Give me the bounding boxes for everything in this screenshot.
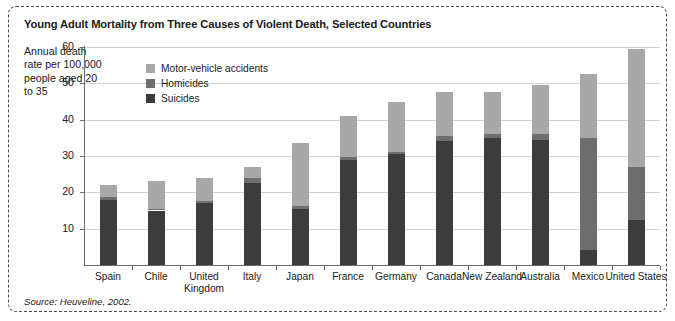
gridline-40 [84, 120, 660, 121]
y-tick-label-60: 60 [48, 40, 74, 52]
bar-segment-australia-suicides [532, 140, 549, 265]
source-note: Source: Heuveline, 2002. [24, 296, 132, 307]
bar-france [340, 47, 357, 265]
bar-mexico [580, 47, 597, 265]
bar-segment-canada-motor-vehicle-accidents [436, 92, 453, 136]
bar-segment-chile-motor-vehicle-accidents [148, 181, 165, 208]
y-tick-label-10: 10 [48, 222, 74, 234]
bar-segment-mexico-motor-vehicle-accidents [580, 74, 597, 138]
bar-segment-canada-suicides [436, 141, 453, 265]
gridline-30 [84, 156, 660, 157]
y-tick-label-40: 40 [48, 113, 74, 125]
chart-legend: Motor-vehicle accidents Homicides Suicid… [146, 62, 268, 107]
gridline-60 [84, 47, 660, 48]
x-tick-mark-9 [564, 266, 565, 270]
bar-germany [388, 47, 405, 265]
bar-segment-australia-motor-vehicle-accidents [532, 85, 549, 134]
bar-segment-germany-homicides [388, 152, 405, 155]
bar-segment-united-states-suicides [628, 220, 645, 265]
y-tick-label-30: 30 [48, 149, 74, 161]
bar-segment-japan-motor-vehicle-accidents [292, 143, 309, 206]
bar-segment-italy-motor-vehicle-accidents [244, 167, 261, 178]
x-tick-mark-2 [228, 266, 229, 270]
bar-canada [436, 47, 453, 265]
bar-segment-france-homicides [340, 157, 357, 160]
legend-label-motor-vehicle-accidents: Motor-vehicle accidents [161, 63, 268, 74]
legend-item-motor-vehicle-accidents: Motor-vehicle accidents [146, 62, 268, 75]
gridline-10 [84, 229, 660, 230]
x-tick-mark-5 [372, 266, 373, 270]
bar-australia [532, 47, 549, 265]
bar-segment-australia-homicides [532, 134, 549, 139]
bar-segment-france-motor-vehicle-accidents [340, 116, 357, 157]
bar-segment-germany-motor-vehicle-accidents [388, 102, 405, 152]
bar-segment-canada-homicides [436, 136, 453, 141]
bar-segment-united-kingdom-motor-vehicle-accidents [196, 178, 213, 202]
legend-label-suicides: Suicides [161, 93, 200, 104]
x-tick-mark-1 [180, 266, 181, 270]
bar-segment-germany-suicides [388, 154, 405, 265]
bar-segment-mexico-homicides [580, 138, 597, 251]
bar-united-states [628, 47, 645, 265]
y-tick-label-20: 20 [48, 185, 74, 197]
bar-new-zealand [484, 47, 501, 265]
bar-japan [292, 47, 309, 265]
x-axis-label-united-states: United States [604, 271, 668, 283]
bar-segment-new-zealand-homicides [484, 134, 501, 138]
y-tick-label-50: 50 [48, 76, 74, 88]
x-tick-mark-0 [132, 266, 133, 270]
bar-segment-united-kingdom-suicides [196, 203, 213, 265]
x-tick-mark-4 [324, 266, 325, 270]
bar-segment-new-zealand-suicides [484, 138, 501, 265]
bar-segment-united-kingdom-homicides [196, 201, 213, 203]
x-tick-mark-10 [612, 266, 613, 270]
bar-segment-japan-suicides [292, 209, 309, 265]
legend-swatch-motor-vehicle-accidents [146, 64, 155, 73]
bar-segment-mexico-suicides [580, 250, 597, 265]
bar-segment-united-states-motor-vehicle-accidents [628, 49, 645, 167]
figure-container: Young Adult Mortality from Three Causes … [0, 0, 675, 321]
bar-segment-spain-suicides [100, 200, 117, 265]
bar-segment-spain-motor-vehicle-accidents [100, 185, 117, 197]
bar-segment-italy-suicides [244, 183, 261, 265]
bar-segment-japan-homicides [292, 206, 309, 209]
x-tick-mark-6 [420, 266, 421, 270]
bar-segment-france-suicides [340, 160, 357, 265]
bar-segment-spain-homicides [100, 197, 117, 200]
bar-spain [100, 47, 117, 265]
bar-segment-italy-homicides [244, 178, 261, 183]
bar-segment-chile-suicides [148, 211, 165, 266]
plot-area: 102030405060 SpainChileUnited KingdomIta… [0, 0, 675, 321]
bar-segment-united-states-homicides [628, 167, 645, 220]
legend-swatch-suicides [146, 94, 155, 103]
x-tick-mark-8 [516, 266, 517, 270]
x-tick-mark-7 [468, 266, 469, 270]
gridline-20 [84, 192, 660, 193]
legend-label-homicides: Homicides [161, 78, 209, 89]
x-tick-mark-3 [276, 266, 277, 270]
legend-swatch-homicides [146, 79, 155, 88]
bar-segment-new-zealand-motor-vehicle-accidents [484, 92, 501, 134]
legend-item-suicides: Suicides [146, 92, 268, 105]
bar-segment-chile-homicides [148, 209, 165, 211]
y-axis-line [84, 46, 85, 266]
x-tick-mark-11 [660, 266, 661, 270]
legend-item-homicides: Homicides [146, 77, 268, 90]
